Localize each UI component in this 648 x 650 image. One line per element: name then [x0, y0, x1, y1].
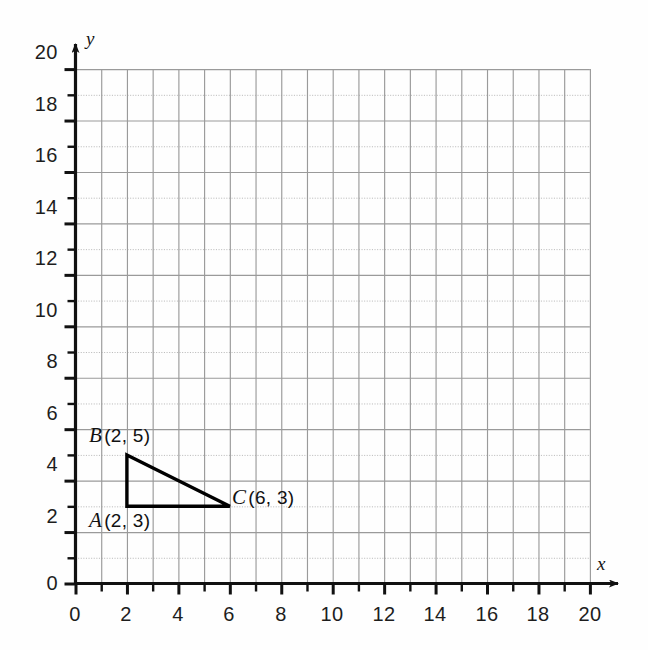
- x-tick-label-14: 14: [415, 603, 455, 626]
- x-tick-label-16: 16: [467, 603, 507, 626]
- x-axis-label: x: [597, 553, 605, 575]
- y-axis-label: y: [86, 28, 94, 50]
- x-tick-label-12: 12: [364, 603, 404, 626]
- vertex-label-b: B(2, 5): [89, 423, 150, 448]
- y-tick-label-18: 18: [12, 93, 58, 116]
- vertex-name-b: B: [89, 423, 104, 447]
- x-tick-label-10: 10: [312, 603, 352, 626]
- y-tick-label-14: 14: [12, 196, 58, 219]
- x-tick-label-4: 4: [158, 603, 198, 626]
- x-tick-label-20: 20: [570, 603, 610, 626]
- y-tick-label-6: 6: [12, 402, 58, 425]
- vertex-name-c: C: [232, 485, 248, 509]
- vertex-label-c: C(6, 3): [232, 485, 294, 510]
- x-tick-label-8: 8: [261, 603, 301, 626]
- vertex-coords-b: (2, 5): [104, 425, 150, 446]
- y-tick-label-12: 12: [12, 247, 58, 270]
- x-tick-label-18: 18: [518, 603, 558, 626]
- y-tick-label-20: 20: [12, 41, 58, 64]
- vertex-coords-c: (6, 3): [248, 487, 294, 508]
- vertex-label-a: A(2, 3): [89, 508, 150, 533]
- vertex-name-a: A: [89, 508, 104, 532]
- y-tick-label-16: 16: [12, 144, 58, 167]
- y-tick-label-2: 2: [12, 505, 58, 528]
- x-tick-label-2: 2: [106, 603, 146, 626]
- x-tick-label-0: 0: [55, 603, 95, 626]
- graph-canvas: [0, 0, 648, 650]
- coordinate-grid-figure: 20 18 16 14 12 10 8 6 4 2 0 0 2 4 6 8 10…: [0, 0, 648, 650]
- y-tick-label-8: 8: [12, 350, 58, 373]
- x-tick-label-6: 6: [209, 603, 249, 626]
- y-tick-label-0: 0: [12, 572, 58, 595]
- y-tick-label-10: 10: [12, 299, 58, 322]
- y-tick-label-4: 4: [12, 453, 58, 476]
- vertex-coords-a: (2, 3): [104, 510, 150, 531]
